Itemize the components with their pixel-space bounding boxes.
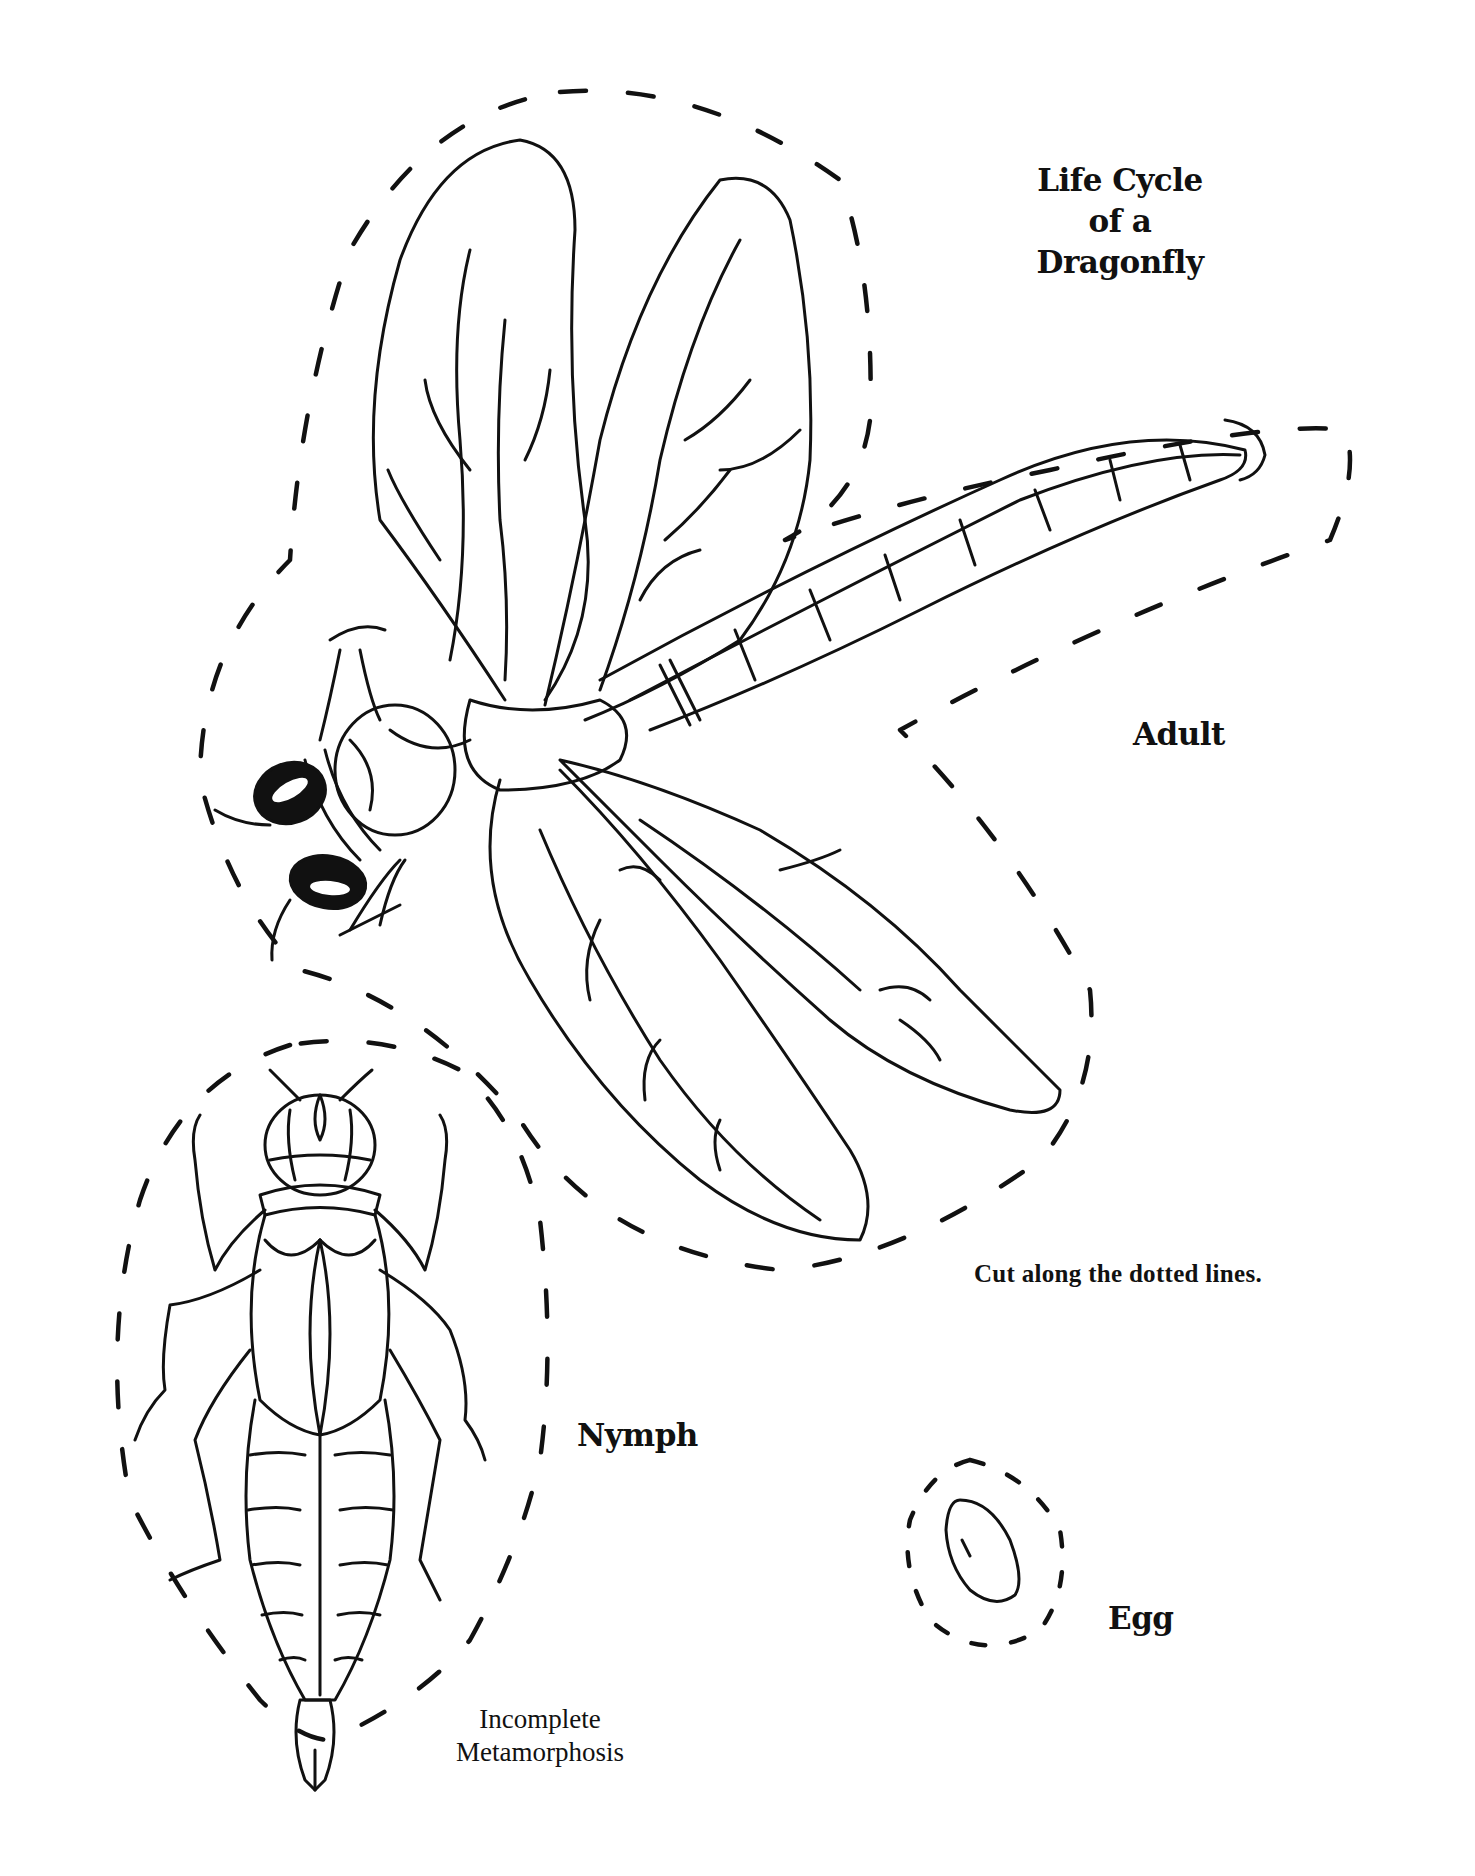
metamorphosis-caption: Incomplete Metamorphosis [420,1703,660,1769]
egg-shape [946,1500,1019,1601]
title-line-3: Dragonfly [1000,242,1240,283]
egg-drawing [908,1460,1063,1645]
egg-cut-line [908,1460,1063,1645]
adult-hindwing-right [560,760,1060,1113]
adult-abdomen [600,440,1246,730]
adult-forewing-left [373,140,588,700]
illustration-canvas [0,0,1475,1876]
worksheet-title: Life Cycle of a Dragonfly [1000,160,1240,283]
caption-line-1: Incomplete [420,1703,660,1736]
caption-line-2: Metamorphosis [420,1736,660,1769]
nymph-stage-label: Nymph [577,1417,698,1453]
worksheet-page: Life Cycle of a Dragonfly Adult Cut alon… [0,0,1475,1876]
adult-stage-label: Adult [1133,716,1225,752]
title-line-1: Life Cycle [1000,160,1240,201]
title-line-2: of a [1000,201,1240,242]
nymph-head [265,1095,375,1195]
nymph-drawing [117,1041,547,1790]
cut-instruction: Cut along the dotted lines. [974,1260,1262,1288]
egg-stage-label: Egg [1108,1600,1173,1636]
nymph-cut-line [117,1041,547,1740]
